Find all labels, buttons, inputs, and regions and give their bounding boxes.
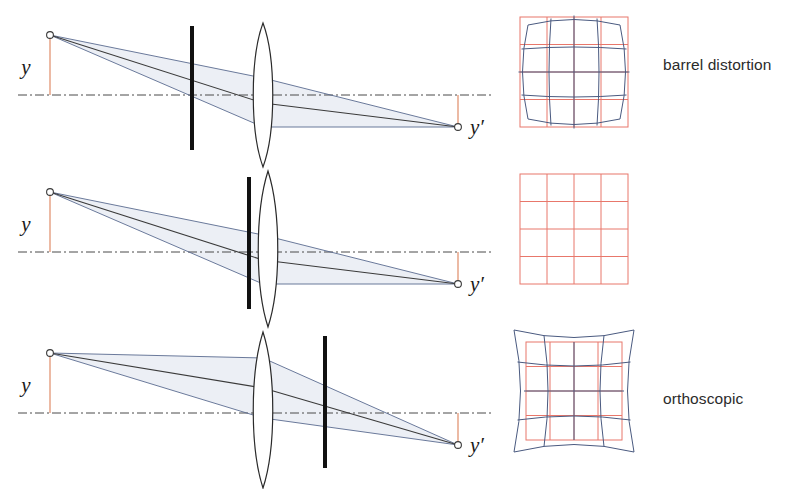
image-height-label: y′ — [468, 115, 484, 139]
object-point-marker — [47, 32, 54, 39]
distortion-grid-pincushion — [500, 318, 660, 481]
biconvex-lens — [253, 23, 273, 167]
distorted-grid-barrel — [519, 16, 630, 129]
optical-diagram-pincushion: y y′ — [0, 318, 500, 481]
figure-row-barrel: y y′ — [0, 0, 811, 163]
reference-grid — [520, 174, 628, 284]
object-point-marker — [47, 350, 54, 357]
biconvex-lens — [253, 332, 273, 488]
image-height-label: y′ — [468, 433, 484, 457]
ray-bundle-shading — [50, 192, 458, 284]
figure-row-pincushion: y y′ — [0, 318, 811, 481]
object-point-marker — [47, 189, 54, 196]
object-height-label: y — [19, 373, 31, 397]
principal-ray-object-side — [50, 35, 263, 103]
distortion-grid-barrel — [500, 0, 660, 163]
distortion-grid-orthoscopic — [500, 157, 660, 320]
distorted-grid-pincushion — [514, 330, 634, 452]
lens-distortion-figure: y y′ — [0, 0, 811, 489]
image-point-marker — [455, 442, 462, 449]
optical-diagram-orthoscopic: y y′ — [0, 157, 500, 320]
object-height-label: y — [19, 212, 31, 236]
caption-barrel-distortion: barrel distortion — [663, 55, 811, 75]
figure-row-orthoscopic: y y′ orthoscopic — [0, 157, 811, 320]
optical-diagram-barrel: y y′ — [0, 0, 500, 163]
object-height-label: y — [19, 55, 31, 79]
principal-ray-object-side — [50, 192, 263, 260]
image-point-marker — [455, 281, 462, 288]
image-height-label: y′ — [468, 272, 484, 296]
biconvex-lens — [258, 171, 278, 327]
image-point-marker — [455, 124, 462, 131]
